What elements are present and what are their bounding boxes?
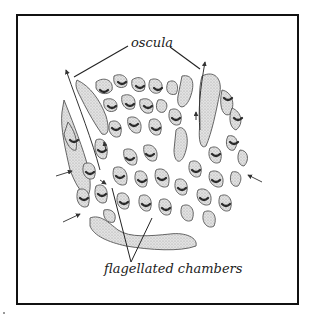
scan-speck	[3, 312, 5, 314]
sponge-tissue	[62, 74, 248, 250]
flagellated-chambers-label: flagellated chambers	[104, 262, 243, 275]
oscula-leader-lines	[74, 46, 200, 77]
oscula-label: oscula	[131, 36, 173, 49]
